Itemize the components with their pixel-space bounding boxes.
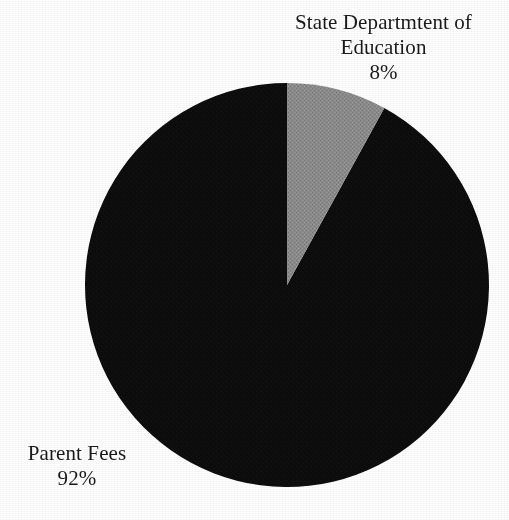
slice-label-parent-fees-line1: Parent Fees [2, 441, 152, 466]
slice-label-state-dept: State Departmtent of Education 8% [258, 10, 509, 84]
pie-chart-page: State Departmtent of Education 8% Parent… [0, 0, 509, 520]
slice-value-parent-fees: 92% [2, 466, 152, 491]
slice-label-state-dept-line1: State Departmtent of [258, 10, 509, 35]
slice-label-state-dept-line2: Education [258, 35, 509, 60]
slice-label-parent-fees: Parent Fees 92% [2, 441, 152, 491]
pie-slice-parent-fees [85, 83, 489, 487]
slice-value-state-dept: 8% [258, 60, 509, 85]
